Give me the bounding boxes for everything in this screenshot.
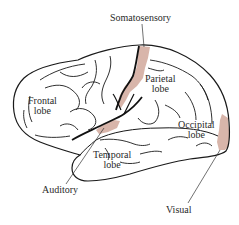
auditory-label-text: Auditory [42,184,78,195]
parietal-lobe-label-line2: lobe [145,84,176,94]
lateral-fissure [72,97,142,140]
auditory-label: Auditory [42,185,78,195]
somatosensory-leader-line [142,24,144,47]
frontal-lobe-label: Frontal lobe [28,96,57,116]
parietal-lobe-label: Parietal lobe [145,74,176,94]
visual-leader-line [188,150,220,203]
occipital-lobe-label-line2: lobe [178,130,215,140]
somatosensory-label-text: Somatosensory [110,12,171,23]
visual-label-text: Visual [166,204,192,215]
temporal-lobe-label: Temporal lobe [93,150,131,170]
visual-label: Visual [166,205,192,215]
temporal-lobe-label-line2: lobe [93,160,131,170]
frontal-lobe-label-line2: lobe [28,106,57,116]
occipital-lobe-label: Occipital lobe [178,120,215,140]
visual-area [217,114,229,150]
somatosensory-label: Somatosensory [110,13,171,23]
brain-diagram: Somatosensory Parietal lobe Frontal lobe… [0,0,239,225]
